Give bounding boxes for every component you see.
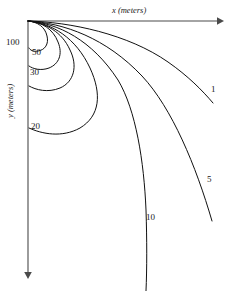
trajectory-figure: x (meters) y (meters) 1 5 10 20 30 50 10… [0,0,231,291]
x-axis-label: x (meters) [112,6,146,15]
curve-label-100: 100 [6,38,20,47]
y-axis-arrowhead [24,272,32,279]
x-axis-arrowhead [217,17,224,25]
curve-label-1: 1 [211,85,216,94]
curve-label-20: 20 [31,122,40,131]
curve-label-50: 50 [32,48,41,57]
curve-1 [28,21,213,103]
y-axis-label: y (meters) [6,84,15,118]
curve-10 [28,21,147,291]
curve-label-10: 10 [146,213,155,222]
plot-canvas [0,0,231,291]
curve-label-5: 5 [207,175,212,184]
curve-label-30: 30 [30,68,39,77]
curve-family [28,21,213,291]
curve-5 [28,21,212,221]
y-axis [24,21,32,279]
